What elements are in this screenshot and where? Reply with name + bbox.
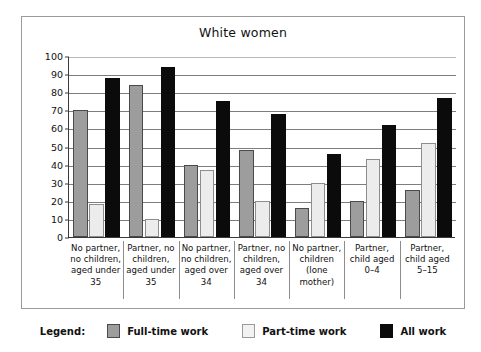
x-axis-label-line: 35: [68, 277, 123, 288]
x-axis-label-line: 5–15: [400, 265, 455, 276]
chart-title: White women: [22, 25, 464, 40]
category-divider: [234, 241, 235, 299]
x-axis-category-label: Partner,child aged5–15: [400, 241, 455, 303]
legend-title: Legend:: [40, 326, 85, 337]
legend-swatch-part-time: [242, 324, 255, 338]
y-tick-label: 70: [51, 107, 63, 117]
y-tick-label: 80: [51, 88, 63, 98]
x-axis-label-line: aged over: [234, 265, 289, 276]
x-axis-label-line: 34: [179, 277, 234, 288]
x-axis-label-line: 34: [234, 277, 289, 288]
bar-part-time: [145, 219, 160, 237]
x-axis-category-labels: No partner,no children,aged under35Partn…: [68, 241, 455, 303]
legend-label: Full-time work: [127, 326, 208, 337]
bar-group: [69, 57, 124, 237]
bar-group: [235, 57, 290, 237]
category-divider: [179, 241, 180, 299]
bar-all-work: [382, 125, 397, 237]
x-axis-label-line: child aged: [400, 254, 455, 265]
bar-part-time: [366, 159, 381, 237]
x-axis-label-line: Partner, no: [234, 243, 289, 254]
bar-all-work: [105, 78, 120, 237]
bar-group: [180, 57, 235, 237]
y-tick-label: 10: [51, 215, 63, 225]
x-axis-label-line: child aged: [344, 254, 399, 265]
bar-all-work: [161, 67, 176, 237]
x-axis-category-label: No partner,no children,aged over34: [179, 241, 234, 303]
x-axis-label-line: Partner,: [344, 243, 399, 254]
x-axis-label-line: No partner,: [179, 243, 234, 254]
category-divider: [344, 241, 345, 299]
bar-all-work: [271, 114, 286, 237]
x-axis-label-line: aged over: [179, 265, 234, 276]
y-tick-label: 60: [51, 125, 63, 135]
legend-swatch-full-time: [107, 324, 120, 338]
y-tick-label: 100: [45, 52, 63, 62]
x-axis-label-line: (lone: [289, 265, 344, 276]
y-tick-label: 0: [57, 233, 63, 243]
x-axis-category-label: No partner,children(lonemother): [289, 241, 344, 303]
x-axis-label-line: aged under: [123, 265, 178, 276]
x-axis-label-line: 0–4: [344, 265, 399, 276]
bar-full-time: [184, 165, 199, 237]
x-axis-label-line: Partner,: [400, 243, 455, 254]
y-tick-label: 40: [51, 161, 63, 171]
y-tick-mark: [65, 238, 69, 239]
x-axis-label-line: Partner, no: [123, 243, 178, 254]
x-axis-label-line: children,: [234, 254, 289, 265]
x-axis-label-line: no children,: [68, 254, 123, 265]
bar-all-work: [437, 98, 452, 237]
x-axis-label-line: children: [289, 254, 344, 265]
bars-layer: [69, 57, 455, 237]
x-axis-label-line: no children,: [179, 254, 234, 265]
legend-label: All work: [400, 326, 446, 337]
plot-area: 0102030405060708090100: [68, 57, 455, 238]
x-axis-label-line: No partner,: [68, 243, 123, 254]
bar-full-time: [73, 110, 88, 237]
legend-entry: Part-time work: [242, 324, 346, 338]
bar-group: [345, 57, 400, 237]
x-axis-label-line: aged under: [68, 265, 123, 276]
chart-figure: White women 0102030405060708090100 No pa…: [0, 0, 481, 352]
bar-part-time: [89, 204, 104, 237]
bar-full-time: [239, 150, 254, 237]
x-axis-label-line: No partner,: [289, 243, 344, 254]
bar-part-time: [311, 183, 326, 237]
bar-all-work: [216, 101, 231, 237]
bar-full-time: [405, 190, 420, 237]
y-tick-label: 30: [51, 179, 63, 189]
bar-full-time: [295, 208, 310, 237]
category-divider: [400, 241, 401, 299]
chart-frame: White women 0102030405060708090100 No pa…: [21, 16, 465, 309]
bar-group: [124, 57, 179, 237]
bar-full-time: [129, 85, 144, 237]
bar-part-time: [421, 143, 436, 237]
y-tick-label: 20: [51, 197, 63, 207]
x-axis-label-line: mother): [289, 277, 344, 288]
x-axis-category-label: No partner,no children,aged under35: [68, 241, 123, 303]
legend-label: Part-time work: [262, 326, 346, 337]
legend-entries: Full-time workPart-time workAll work: [107, 324, 446, 338]
bar-part-time: [200, 170, 215, 237]
x-axis-category-label: Partner, nochildren,aged over34: [234, 241, 289, 303]
bar-group: [290, 57, 345, 237]
x-axis-category-label: Partner,child aged0–4: [344, 241, 399, 303]
bar-part-time: [255, 201, 270, 237]
x-axis-category-label: Partner, nochildren,aged under35: [123, 241, 178, 303]
y-tick-label: 90: [51, 70, 63, 80]
category-divider: [123, 241, 124, 299]
category-divider: [289, 241, 290, 299]
x-axis-label-line: 35: [123, 277, 178, 288]
y-tick-label: 50: [51, 143, 63, 153]
legend-entry: All work: [380, 324, 446, 338]
bar-full-time: [350, 201, 365, 237]
legend-swatch-all-work: [380, 324, 393, 338]
bar-all-work: [327, 154, 342, 237]
x-axis-label-line: children,: [123, 254, 178, 265]
bar-group: [401, 57, 456, 237]
chart-legend: Legend: Full-time workPart-time workAll …: [21, 316, 465, 346]
legend-entry: Full-time work: [107, 324, 208, 338]
